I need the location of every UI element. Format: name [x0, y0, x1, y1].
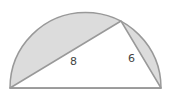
semicircle-diagram: 8 6 [0, 0, 171, 95]
label-leg-short: 6 [128, 52, 135, 65]
label-leg-long: 8 [70, 55, 77, 68]
